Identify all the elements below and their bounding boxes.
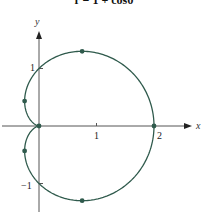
x-axis-arrow-icon bbox=[184, 123, 192, 129]
data-point bbox=[37, 124, 42, 129]
x-tick-label-2: 2 bbox=[157, 130, 162, 141]
data-point bbox=[80, 198, 85, 203]
data-point bbox=[80, 49, 85, 54]
x-tick-label-1: 1 bbox=[94, 130, 99, 141]
y-axis-label: y bbox=[34, 16, 40, 27]
x-axis-label: x bbox=[195, 120, 201, 131]
data-point bbox=[22, 149, 27, 154]
data-point bbox=[22, 99, 27, 104]
y-axis-arrow-icon bbox=[36, 31, 42, 39]
cardioid-plot: x y 1 2 1 −1 bbox=[0, 0, 208, 217]
y-tick-label-neg1: −1 bbox=[21, 180, 32, 191]
y-tick-label-1: 1 bbox=[30, 62, 35, 73]
data-point bbox=[152, 124, 157, 129]
